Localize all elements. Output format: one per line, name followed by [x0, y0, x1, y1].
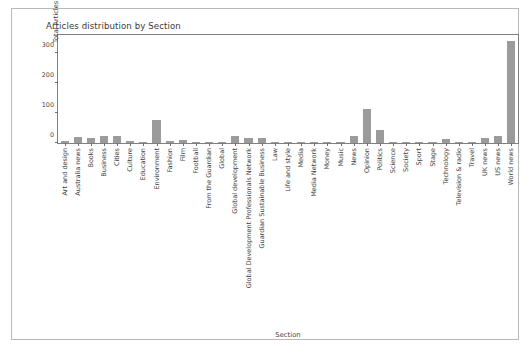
bar-slot [137, 35, 150, 143]
bar [113, 136, 121, 143]
bar [231, 136, 239, 143]
x-tick-mark [459, 143, 460, 146]
x-tick-label: Business [100, 148, 108, 177]
x-tick-mark [170, 143, 171, 146]
x-tick-mark [288, 143, 289, 146]
x-tick-mark [354, 143, 355, 146]
x-tick-mark [183, 143, 184, 146]
x-tick-label: Fashion [166, 148, 174, 173]
x-tick-label: Film [179, 148, 187, 161]
x-tick-label: Travel [468, 148, 476, 167]
bar-slot [216, 35, 229, 143]
x-tick-label: Politics [376, 148, 384, 171]
bar-slot [492, 35, 505, 143]
bar-slot [97, 35, 110, 143]
y-tick-label: 300 [42, 41, 54, 49]
x-tick-label: Sport [415, 148, 423, 165]
x-tick-mark [91, 143, 92, 146]
x-tick-mark [393, 143, 394, 146]
bar-slot [163, 35, 176, 143]
bar-slot [111, 35, 124, 143]
bar-slot [308, 35, 321, 143]
y-tick-label: 200 [42, 71, 54, 79]
x-tick-mark [117, 143, 118, 146]
x-tick-label: Culture [126, 148, 134, 172]
bar-slot [71, 35, 84, 143]
y-tick-label: 0 [50, 131, 54, 139]
bar-slot [479, 35, 492, 143]
x-tick-label: Money [323, 148, 331, 170]
x-tick-label: UK news [481, 148, 489, 176]
x-tick-label: Music [337, 148, 345, 167]
bar-slot [452, 35, 465, 143]
x-tick-mark [327, 143, 328, 146]
bar-slot [321, 35, 334, 143]
plot-area: Total Articles Count 0100200300 Art and … [57, 34, 519, 144]
bar [494, 136, 502, 143]
bar-slot [203, 35, 216, 143]
x-tick-mark [104, 143, 105, 146]
bar-slot [347, 35, 360, 143]
bar-slot [189, 35, 202, 143]
x-tick-label: Opinion [363, 148, 371, 173]
bar-slot [387, 35, 400, 143]
bar-slot [229, 35, 242, 143]
x-tick-label: Society [402, 148, 410, 172]
bar-slot [334, 35, 347, 143]
x-tick-mark [367, 143, 368, 146]
bar [100, 136, 108, 143]
bar [350, 136, 358, 143]
x-tick-mark [498, 143, 499, 146]
bar-slot [413, 35, 426, 143]
x-tick-label: Media Network [310, 148, 318, 197]
x-tick-mark [472, 143, 473, 146]
x-tick-mark [65, 143, 66, 146]
x-tick-mark [196, 143, 197, 146]
x-tick-label: Australia news [74, 148, 82, 196]
bar [152, 120, 160, 143]
bar-slot [124, 35, 137, 143]
x-tick-mark [511, 143, 512, 146]
bar-slot [400, 35, 413, 143]
x-tick-label: Global [218, 148, 226, 169]
chart-card: Articles distribution by Section Total A… [11, 8, 519, 340]
x-tick-mark [262, 143, 263, 146]
x-tick-mark [235, 143, 236, 146]
bar [363, 109, 371, 144]
y-tick-label: 100 [42, 101, 54, 109]
x-tick-label: Science [389, 148, 397, 173]
x-tick-mark [157, 143, 158, 146]
x-tick-label: Guardian Sustainable Business [258, 148, 266, 249]
x-tick-label: Law [271, 148, 279, 161]
bar-slot [176, 35, 189, 143]
bar-slot [360, 35, 373, 143]
x-tick-label: Life and style [284, 148, 292, 192]
x-tick-label: Environment [153, 148, 161, 190]
bar [507, 41, 515, 143]
chart-title: Articles distribution by Section [46, 21, 181, 31]
x-tick-label: News [350, 148, 358, 166]
x-tick-mark [433, 143, 434, 146]
bar-slot [426, 35, 439, 143]
x-tick-label: Television & radio [455, 148, 463, 205]
x-tick-mark [209, 143, 210, 146]
bar-slot [373, 35, 386, 143]
x-tick-label: Football [192, 148, 200, 174]
bar-slot [281, 35, 294, 143]
x-tick-mark [275, 143, 276, 146]
x-tick-mark [301, 143, 302, 146]
bar-slot [150, 35, 163, 143]
x-tick-mark [143, 143, 144, 146]
bar-slot [295, 35, 308, 143]
x-tick-label: Education [139, 148, 147, 180]
x-axis-label: Section [57, 331, 519, 339]
x-tick-label: Global development [231, 148, 239, 214]
x-tick-mark [78, 143, 79, 146]
x-tick-label: Technology [442, 148, 450, 184]
x-tick-mark [130, 143, 131, 146]
bar-slot [255, 35, 268, 143]
x-tick-label: From the Guardian [205, 148, 213, 209]
x-tick-label: Media [297, 148, 305, 168]
x-tick-mark [314, 143, 315, 146]
bar-slot [505, 35, 518, 143]
